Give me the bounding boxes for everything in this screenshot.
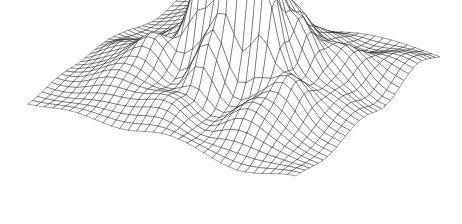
mesh-face-group	[28, 0, 440, 176]
wireframe-surface-figure	[0, 0, 462, 224]
surface-mesh-canvas	[0, 0, 462, 224]
